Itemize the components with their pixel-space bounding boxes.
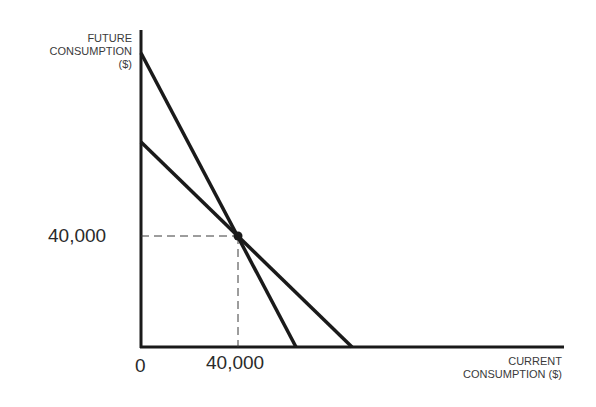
x-axis-label: CURRENT CONSUMPTION ($) bbox=[440, 355, 562, 381]
intersection-point bbox=[234, 232, 243, 241]
x-axis-label-line2: CONSUMPTION ($) bbox=[440, 368, 562, 381]
y-axis-label-line3: ($) bbox=[40, 58, 132, 71]
y-axis-label-line2: CONSUMPTION bbox=[40, 45, 132, 58]
x-tick-0: 0 bbox=[135, 356, 146, 376]
y-tick-40000: 40,000 bbox=[48, 226, 106, 246]
x-axis-label-line1: CURRENT bbox=[440, 355, 562, 368]
y-axis-label-line1: FUTURE bbox=[40, 32, 132, 45]
flat-budget-line bbox=[141, 142, 352, 347]
steep-budget-line bbox=[141, 53, 296, 347]
y-axis-label: FUTURE CONSUMPTION ($) bbox=[40, 32, 132, 71]
x-tick-40000: 40,000 bbox=[206, 353, 264, 373]
